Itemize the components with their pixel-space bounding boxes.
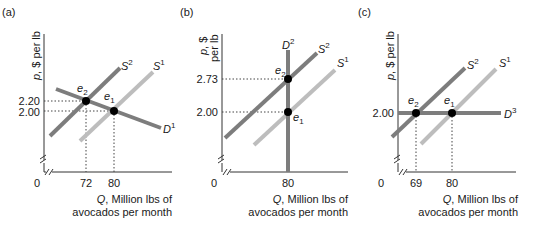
panel-b-label: (b): [180, 6, 193, 18]
panel-a: (a) p, $ per lb e2 e1 S2 S1 D1 2.20 2.00…: [2, 6, 176, 218]
panel-c-s2-label: S2: [467, 57, 479, 71]
panel-c-origin: 0: [378, 177, 384, 189]
panel-b-x-axis-label-2: avocados per month: [248, 206, 348, 218]
panel-a-x-axis-label-1: Q, Million lbs of: [97, 193, 173, 205]
panel-b-x-axis-label-1: Q, Million lbs of: [273, 193, 349, 205]
panel-c-label: (c): [358, 6, 371, 18]
panel-a-y-axis-label: p, $ per lb: [30, 31, 42, 81]
panel-b: (b) p, $ per lb e2 e1 D2 S2 S1 2.73 2.00…: [180, 6, 349, 218]
panel-a-x-axis-break: [45, 169, 53, 175]
panel-b-e1-label: e1: [293, 111, 304, 126]
panel-b-y-axis-break: [218, 155, 224, 163]
panel-c-y-tick-1: 2.00: [373, 107, 394, 119]
panel-b-x-axis-break: [223, 169, 231, 175]
panel-a-y-tick-2: 2.00: [19, 106, 40, 118]
panel-b-y-tick-1: 2.73: [197, 73, 218, 85]
panel-a-e1-label: e1: [104, 90, 115, 105]
panel-c-point-e2: [412, 109, 420, 117]
panel-c-point-e1: [448, 109, 456, 117]
figure: (a) p, $ per lb e2 e1 S2 S1 D1 2.20 2.00…: [0, 0, 534, 232]
panel-b-y-axis-label-2: per lb: [208, 34, 220, 62]
panel-c-y-axis-break: [394, 155, 400, 163]
panel-c-x-axis-label-2: avocados per month: [418, 206, 518, 218]
panel-c-s1-label: S1: [499, 55, 511, 69]
panel-a-x-axis-label-2: avocados per month: [72, 206, 172, 218]
panel-c-supply-1-curve: [421, 69, 496, 144]
panel-c-y-axis-label: p, $ per lb: [384, 31, 396, 81]
panel-c-x-axis-break: [399, 169, 407, 175]
panel-c-e2-label: e2: [408, 94, 419, 109]
panel-a-supply-1-curve: [80, 72, 153, 141]
panel-b-y-tick-2: 2.00: [197, 106, 218, 118]
panel-a-label: (a): [2, 6, 15, 18]
panel-b-origin: 0: [211, 177, 217, 189]
panel-a-y-axis-break: [40, 155, 46, 163]
panel-a-point-e1: [110, 107, 118, 115]
panel-b-s2-label: S2: [318, 41, 330, 55]
panel-c-x-axis-label-1: Q, Million lbs of: [443, 193, 519, 205]
panel-b-point-e1: [284, 108, 292, 116]
panel-c-d3-label: D3: [504, 106, 517, 120]
panel-a-point-e2: [82, 97, 90, 105]
panel-b-s1-label: S1: [337, 55, 349, 69]
panel-b-e2-label: e2: [275, 64, 286, 79]
panel-c-x-tick-2: 80: [446, 177, 458, 189]
panel-a-e2-label: e2: [77, 82, 88, 97]
panel-b-d2-label: D2: [282, 37, 295, 51]
panel-a-d1-label: D1: [163, 121, 176, 135]
panel-a-x-tick-1: 72: [80, 177, 92, 189]
panel-a-x-tick-2: 80: [108, 177, 120, 189]
panel-c-e1-label: e1: [444, 94, 455, 109]
panel-c: (c) p, $ per lb e2 e1 S2 S1 D3 2.00 0 69…: [358, 6, 519, 218]
panel-c-x-tick-1: 69: [410, 177, 422, 189]
panel-b-x-tick-1: 80: [282, 177, 294, 189]
panel-a-s2-label: S2: [121, 58, 133, 72]
panel-b-supply-1-curve: [254, 70, 335, 145]
panel-a-s1-label: S1: [153, 58, 165, 72]
panel-a-origin: 0: [34, 177, 40, 189]
